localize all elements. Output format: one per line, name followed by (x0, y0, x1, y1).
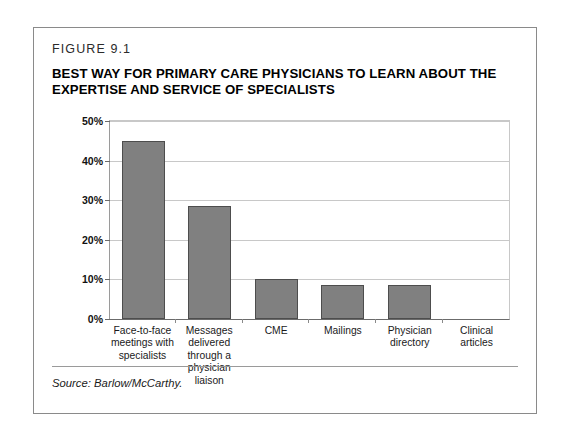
y-axis-tick-label: 40% (82, 155, 103, 167)
figure-title: BEST WAY FOR PRIMARY CARE PHYSICIANS TO … (52, 66, 512, 97)
bar[interactable] (122, 141, 165, 319)
x-tick-mark (109, 319, 176, 324)
y-axis-tick-label: 0% (88, 313, 103, 325)
bar-slot (376, 121, 443, 319)
x-axis-ticks (109, 319, 510, 324)
bar-slot (243, 121, 310, 319)
figure-label: FIGURE 9.1 (52, 42, 131, 56)
x-axis-category-label: Clinical articles (443, 325, 510, 387)
bar[interactable] (321, 285, 364, 319)
source-note: Source: Barlow/McCarthy. (52, 377, 182, 389)
bar-slot (443, 121, 510, 319)
plot-area: 0%10%20%30%40%50% (109, 120, 510, 320)
bar-chart: 0%10%20%30%40%50% Face-to-face meetings … (52, 112, 520, 362)
x-tick-mark (176, 319, 243, 324)
x-axis-category-label: CME (243, 325, 310, 387)
y-axis-tick-label: 30% (82, 194, 103, 206)
footer-divider (52, 366, 518, 367)
bar[interactable] (255, 279, 298, 319)
x-tick-mark (243, 319, 310, 324)
bar-slot (110, 121, 177, 319)
bar[interactable] (188, 206, 231, 319)
figure-container: FIGURE 9.1 BEST WAY FOR PRIMARY CARE PHY… (33, 27, 537, 414)
y-axis-tick-label: 20% (82, 234, 103, 246)
x-tick-mark (443, 319, 510, 324)
bar[interactable] (388, 285, 431, 319)
x-axis-category-label: Mailings (309, 325, 376, 387)
bars-group (110, 121, 509, 319)
bar-slot (310, 121, 377, 319)
y-axis-tick-label: 10% (82, 273, 103, 285)
y-axis-tick-label: 50% (82, 115, 103, 127)
x-axis-category-label: Physician directory (376, 325, 443, 387)
bar-slot (177, 121, 244, 319)
x-tick-mark (376, 319, 443, 324)
x-tick-mark (309, 319, 376, 324)
x-axis-category-label: Messages delivered through a physician l… (176, 325, 243, 387)
